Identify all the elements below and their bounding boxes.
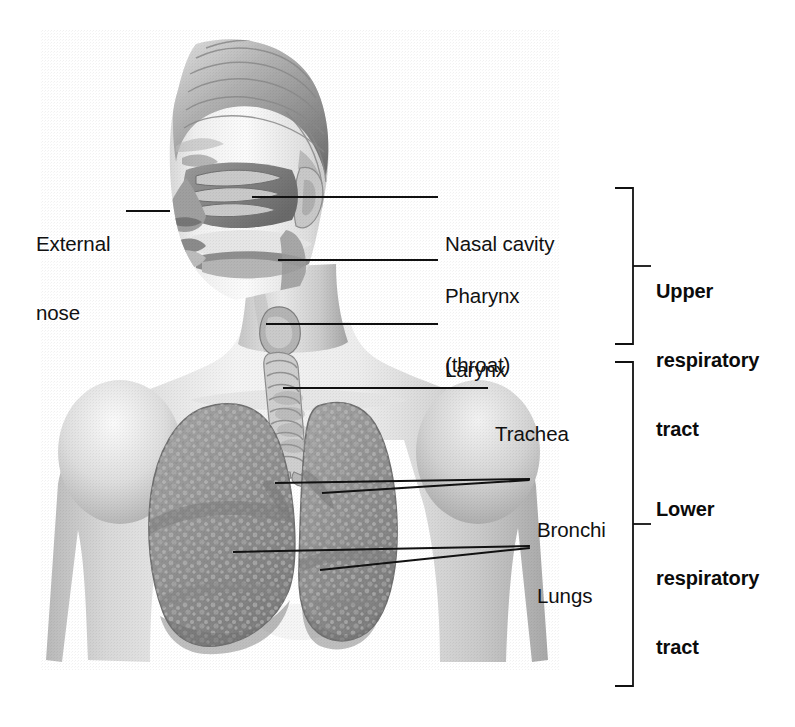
upper-tract-line1: Upper bbox=[656, 280, 759, 303]
bracket-lower-respiratory-tract bbox=[615, 362, 651, 686]
label-trachea-line1: Trachea bbox=[495, 422, 569, 445]
label-lungs: Lungs bbox=[537, 538, 592, 630]
label-external-nose-line1: External bbox=[36, 232, 110, 255]
label-upper-respiratory-tract: Upper respiratory tract bbox=[656, 234, 759, 464]
bracket-lower-stem bbox=[615, 362, 633, 686]
label-external-nose: External nose bbox=[36, 186, 110, 347]
label-trachea: Trachea bbox=[495, 376, 569, 468]
label-lower-respiratory-tract: Lower respiratory tract bbox=[656, 452, 759, 682]
label-pharynx-line1: Pharynx bbox=[445, 284, 520, 307]
bracket-upper-stem bbox=[615, 188, 633, 344]
upper-tract-line2: respiratory bbox=[656, 349, 759, 372]
label-lungs-line1: Lungs bbox=[537, 584, 592, 607]
lower-tract-line1: Lower bbox=[656, 498, 759, 521]
lower-tract-line2: respiratory bbox=[656, 567, 759, 590]
label-external-nose-line2: nose bbox=[36, 301, 110, 324]
bracket-upper-respiratory-tract bbox=[615, 188, 651, 344]
lower-tract-line3: tract bbox=[656, 636, 759, 659]
upper-tract-line3: tract bbox=[656, 418, 759, 441]
